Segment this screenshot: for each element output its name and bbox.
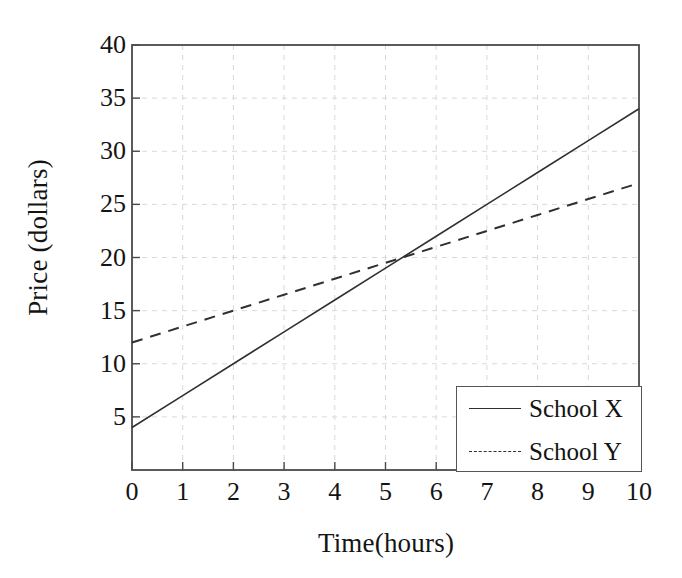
legend-entry-school-y: School Y — [457, 430, 643, 473]
legend-line-sample-solid — [469, 408, 521, 409]
legend: School X School Y — [456, 386, 642, 472]
legend-line-sample-dashed — [469, 451, 521, 452]
plot-area — [0, 0, 682, 578]
legend-label-school-y: School Y — [529, 436, 622, 467]
legend-entry-school-x: School X — [457, 387, 643, 430]
legend-label-school-x: School X — [529, 393, 623, 424]
line-chart-figure: Price (dollars) Time(hours) 510152025303… — [0, 0, 682, 578]
